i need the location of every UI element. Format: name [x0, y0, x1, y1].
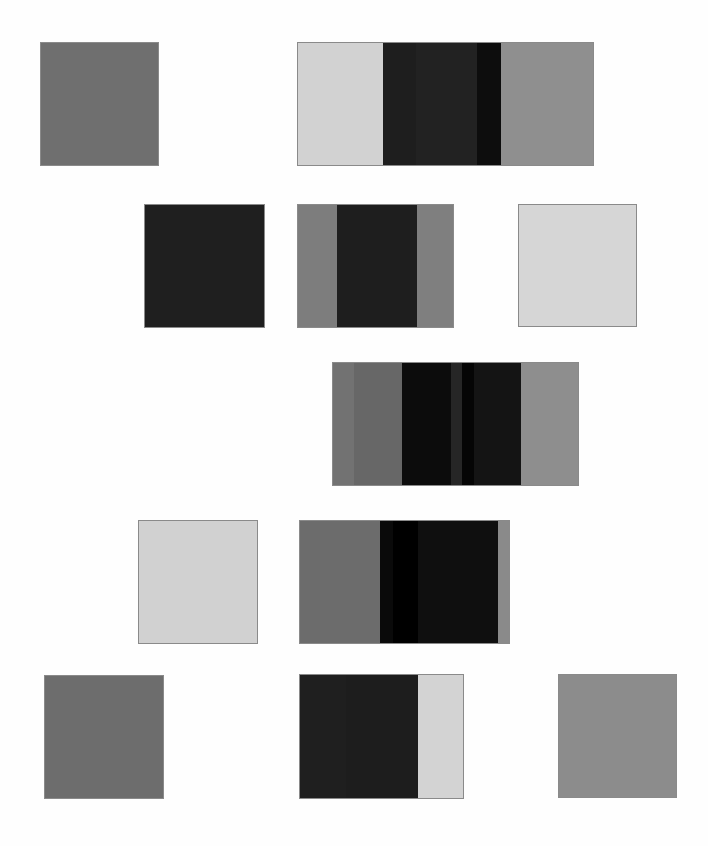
color-band	[451, 363, 462, 485]
color-band	[462, 363, 474, 485]
color-band	[337, 205, 417, 327]
color-band	[418, 521, 498, 643]
color-band	[393, 521, 418, 643]
color-band	[145, 205, 264, 327]
color-band	[346, 675, 418, 798]
swatch-row5-left	[44, 675, 164, 799]
color-band	[298, 43, 383, 165]
swatch-row1-right	[297, 42, 594, 166]
swatch-row1-left	[40, 42, 159, 166]
color-band	[380, 521, 393, 643]
swatch-row2-left	[144, 204, 265, 328]
color-band	[417, 205, 453, 327]
color-band	[383, 43, 416, 165]
color-band	[418, 675, 463, 798]
color-band	[298, 205, 337, 327]
color-band	[300, 675, 346, 798]
color-band	[402, 363, 451, 485]
color-band	[521, 363, 578, 485]
color-band	[416, 43, 477, 165]
color-band	[501, 43, 593, 165]
color-band	[41, 43, 158, 165]
swatch-row4-right	[299, 520, 510, 644]
color-band	[498, 521, 509, 643]
swatch-row2-middle	[297, 204, 454, 328]
swatch-row4-left	[138, 520, 258, 644]
color-band	[474, 363, 521, 485]
swatch-row5-right	[558, 674, 677, 798]
swatch-canvas	[0, 0, 708, 846]
color-band	[333, 363, 354, 485]
swatch-row2-right	[518, 204, 637, 327]
swatch-row5-middle	[299, 674, 464, 799]
color-band	[300, 521, 380, 643]
color-band	[45, 676, 163, 798]
swatch-row3-center	[332, 362, 579, 486]
color-band	[477, 43, 501, 165]
color-band	[519, 205, 636, 326]
color-band	[559, 675, 676, 797]
color-band	[354, 363, 402, 485]
color-band	[139, 521, 257, 643]
